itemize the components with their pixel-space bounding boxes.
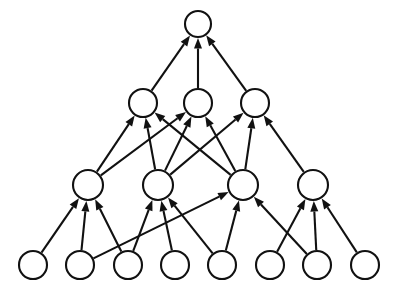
node-l2n3[interactable] [241,89,269,117]
arrowhead-icon [322,198,331,209]
node-l1n1[interactable] [73,170,103,200]
edge-l0n5-to-l1n2 [175,206,213,254]
node-l1n2[interactable] [143,170,173,200]
node-l0n2[interactable] [66,251,94,279]
arrowhead-icon [160,201,168,212]
edge-l2n1-to-l3n1 [152,44,184,91]
edge-l0n1-to-l1n1 [42,207,73,253]
edge-l1n2-to-l2n3 [170,119,235,174]
arrowhead-icon [247,118,255,129]
network-diagram [0,0,396,288]
arrowhead-icon [217,192,228,200]
node-l0n6[interactable] [256,251,284,279]
arrowhead-icon [183,116,191,127]
edge-l0n4-to-l1n2 [164,211,172,250]
node-l1n4[interactable] [298,170,328,200]
arrowhead-icon [144,118,152,129]
node-l0n7[interactable] [303,251,331,279]
edge-l0n2-to-l1n3 [93,197,219,259]
arrowhead-icon [145,200,152,211]
arrowhead-icon [205,116,214,127]
arrowhead-icon [181,35,190,46]
edge-l0n7-to-l1n3 [261,204,307,254]
edges-group [42,35,357,258]
arrowhead-icon [125,115,134,126]
arrowhead-icon [232,200,240,211]
arrowhead-icon [206,35,215,46]
arrowhead-icon [95,199,103,210]
node-l0n5[interactable] [208,251,236,279]
edge-l1n3-to-l2n1 [163,119,231,175]
arrowhead-icon [70,198,79,209]
edge-l1n1-to-l2n1 [97,124,129,172]
node-l0n8[interactable] [351,251,379,279]
node-l2n2[interactable] [184,89,212,117]
arrowhead-icon [310,201,318,212]
node-l0n4[interactable] [161,251,189,279]
network-canvas [0,0,396,288]
edge-l0n8-to-l1n4 [327,207,356,252]
node-l0n3[interactable] [114,251,142,279]
edge-l1n3-to-l2n2 [210,125,235,171]
edge-l0n2-to-l1n1 [81,211,85,250]
arrowhead-icon [264,115,273,126]
arrowhead-icon [194,38,202,49]
edge-l0n5-to-l1n3 [226,211,236,251]
node-l3n1[interactable] [185,11,211,37]
edge-l0n7-to-l1n4 [314,211,316,250]
node-l0n1[interactable] [19,251,47,279]
edge-l0n3-to-l1n2 [133,210,148,251]
node-l2n1[interactable] [129,89,157,117]
arrowhead-icon [81,201,89,212]
edge-l1n2-to-l2n1 [148,128,156,169]
arrowhead-icon [297,199,305,210]
edge-l2n3-to-l3n1 [212,44,246,91]
edge-l1n3-to-l2n3 [245,128,251,169]
edge-l0n6-to-l1n4 [277,208,300,251]
node-l1n3[interactable] [228,170,258,200]
edge-l1n4-to-l2n3 [270,124,304,172]
